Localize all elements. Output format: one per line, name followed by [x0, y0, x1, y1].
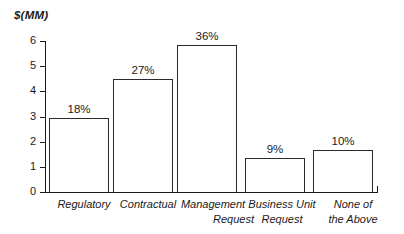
plot-area: 0 1 2 3 4 5 6 18% 27% 36% 9% — [45, 41, 378, 193]
bar-value-label-business-unit-request: 9% — [267, 143, 284, 156]
y-tick-0: 0 — [40, 192, 46, 193]
y-tick-label-6: 6 — [30, 34, 36, 47]
bar-contractual[interactable]: 27% — [113, 79, 173, 192]
bar-business-unit-request[interactable]: 9% — [245, 158, 305, 192]
y-tick-label-4: 4 — [30, 84, 36, 97]
x-axis-line — [45, 192, 378, 193]
x-category-label-none-of-the-above-line2: the Above — [312, 212, 394, 227]
y-tick-4: 4 — [40, 91, 46, 92]
y-tick-5: 5 — [40, 66, 46, 67]
bar-value-label-none-of-the-above: 10% — [331, 135, 354, 148]
y-tick-label-2: 2 — [30, 135, 36, 148]
bar-none-of-the-above[interactable]: 10% — [313, 150, 373, 192]
x-category-label-contractual-line1: Contractual — [120, 198, 176, 210]
y-tick-label-3: 3 — [30, 110, 36, 123]
y-tick-label-5: 5 — [30, 59, 36, 72]
x-category-label-business-unit-request-line1: Business Unit — [248, 198, 315, 210]
y-axis-unit-label: $(MM) — [14, 9, 48, 21]
x-category-label-none-of-the-above-line1: None of — [334, 198, 373, 210]
x-category-label-regulatory-line1: Regulatory — [57, 198, 110, 210]
bar-value-label-management-request: 36% — [195, 30, 218, 43]
y-tick-6: 6 — [40, 41, 46, 42]
x-axis-end-tick — [377, 186, 378, 193]
y-tick-3: 3 — [40, 117, 46, 118]
bar-management-request[interactable]: 36% — [177, 45, 237, 192]
y-tick-label-1: 1 — [30, 160, 36, 173]
y-tick-2: 2 — [40, 142, 46, 143]
bar-value-label-contractual: 27% — [131, 64, 154, 77]
x-category-label-none-of-the-above: None of the Above — [312, 197, 394, 227]
bar-chart: $(MM) 0 1 2 3 4 5 6 18% 27% — [0, 0, 404, 234]
bar-regulatory[interactable]: 18% — [49, 118, 109, 192]
y-tick-1: 1 — [40, 167, 46, 168]
y-tick-label-0: 0 — [30, 185, 36, 198]
bar-value-label-regulatory: 18% — [67, 103, 90, 116]
x-category-label-management-request-line1: Management — [181, 198, 245, 210]
